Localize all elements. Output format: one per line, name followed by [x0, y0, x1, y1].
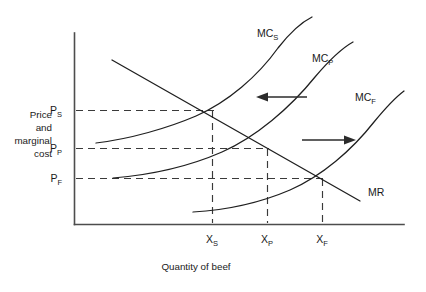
xs-sub: S — [213, 239, 218, 248]
y-axis-title-line-1: Price — [30, 109, 53, 120]
xs-base: X — [206, 233, 213, 245]
mcs-curve — [96, 17, 312, 143]
axes-group — [75, 33, 405, 225]
y-tick-label-pf: PF — [50, 172, 62, 187]
mr-label-base: MR — [368, 186, 385, 198]
xp-sub: P — [268, 239, 273, 248]
x-axis-title: Quantity of beef — [161, 261, 230, 272]
rightward-shift-arrow — [302, 136, 356, 145]
diagram-canvas: MCS MCP MCF MR PS PP PF XS XP XF Price a… — [0, 0, 426, 292]
xp-base: X — [261, 233, 268, 245]
ps-sub: S — [57, 110, 62, 119]
leftward-shift-arrow — [256, 93, 307, 102]
y-axis-title-line-3: marginal — [14, 135, 52, 146]
mcp-curve-label: MCP — [312, 52, 333, 67]
pp-sub: P — [57, 148, 62, 157]
x-tick-label-xp: XP — [261, 233, 273, 248]
pf-base: P — [50, 172, 57, 184]
price-guides-group — [76, 111, 324, 179]
mr-curve-label: MR — [368, 186, 385, 198]
xf-base: X — [316, 233, 323, 245]
mr-curve — [112, 60, 360, 201]
leftward-arrow-head — [256, 93, 268, 102]
pf-sub: F — [57, 178, 62, 187]
xf-sub: F — [323, 239, 328, 248]
y-axis-title-line-4: cost — [34, 148, 52, 159]
quantity-guides-group — [213, 111, 323, 223]
mcs-label-base: MC — [257, 27, 274, 39]
mcs-label-sub: S — [273, 33, 278, 42]
mcf-label-base: MC — [355, 91, 372, 103]
rightward-arrow-head — [344, 136, 356, 145]
mcs-curve-label: MCS — [257, 27, 278, 42]
mcp-label-sub: P — [328, 58, 333, 67]
mcp-label-base: MC — [312, 52, 329, 64]
x-tick-label-xf: XF — [316, 233, 328, 248]
mcf-label-sub: F — [371, 97, 376, 106]
y-axis-title-line-2: and — [36, 122, 52, 133]
economics-diagram: MCS MCP MCF MR PS PP PF XS XP XF Price a… — [0, 0, 426, 292]
y-axis-title: Price and marginal cost — [14, 109, 52, 159]
mcf-curve-label: MCF — [355, 91, 376, 106]
x-tick-label-xs: XS — [206, 233, 218, 248]
